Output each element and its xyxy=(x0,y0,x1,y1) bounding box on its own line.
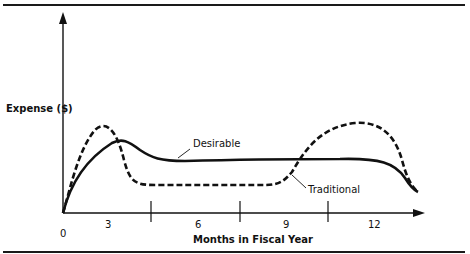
y-axis-arrow-icon xyxy=(59,12,67,24)
x-tick-label-6: 6 xyxy=(195,219,201,230)
chart-canvas xyxy=(0,0,470,254)
x-tick-label-12: 12 xyxy=(368,219,381,230)
desirable-leader-line xyxy=(178,149,190,158)
annotation-desirable: Desirable xyxy=(193,138,240,149)
annotation-traditional: Traditional xyxy=(308,184,360,195)
x-axis-label: Months in Fiscal Year xyxy=(193,234,313,245)
x-origin-label: 0 xyxy=(60,228,66,239)
traditional-leader-line xyxy=(292,175,306,188)
series-traditional xyxy=(63,123,418,213)
x-tick-label-3: 3 xyxy=(105,219,111,230)
bottom-rule xyxy=(3,251,465,253)
x-tick-label-9: 9 xyxy=(283,219,289,230)
x-axis-arrow-icon xyxy=(413,209,425,217)
y-axis-label: Expense ($) xyxy=(6,103,73,114)
